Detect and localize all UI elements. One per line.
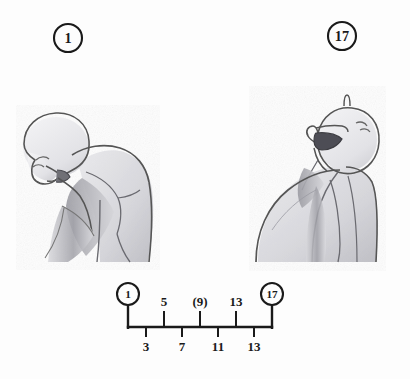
panel-badge-left-text: 1 bbox=[64, 30, 71, 46]
scale-badge-1-text: 1 bbox=[125, 288, 131, 300]
scale-label-above-5: 5 bbox=[161, 294, 168, 309]
scale-label-below-7: 7 bbox=[179, 339, 186, 354]
scale-label-above-13: 13 bbox=[230, 294, 244, 309]
annotation-layer: 11715(9)1317371113 bbox=[0, 0, 410, 379]
scale-label-below-3: 3 bbox=[143, 339, 150, 354]
panel-badge-left: 1 bbox=[54, 24, 82, 52]
scale-label-below-15: 13 bbox=[248, 339, 262, 354]
scale-badge-1: 1 bbox=[117, 283, 139, 305]
scale-label-above-9: (9) bbox=[192, 294, 207, 309]
drawing-canvas: 11715(9)1317371113 1 17 Head and neck fl… bbox=[0, 0, 410, 379]
number-line: 15(9)1317371113 bbox=[117, 283, 283, 354]
scale-label-below-11: 11 bbox=[212, 339, 224, 354]
panel-badge-right: 17 bbox=[328, 22, 356, 50]
scale-badge-17-text: 17 bbox=[266, 288, 278, 300]
panel-badge-right-text: 17 bbox=[335, 28, 349, 44]
scale-badge-17: 17 bbox=[261, 283, 283, 305]
